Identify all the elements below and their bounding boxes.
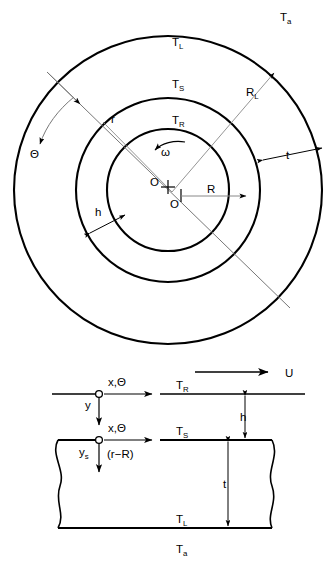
label-origin-upper: O [150, 176, 159, 188]
origin-cross-marker [161, 180, 175, 194]
label-inner-temp: TR [172, 114, 185, 129]
label-surface-axis: x,Θ [108, 422, 126, 434]
label-outer-temp: TL [172, 36, 184, 51]
technical-diagram: Ta TL TS TR Θ ω r RL t h R O O U [0, 0, 331, 569]
right-break-edge [270, 440, 274, 528]
top-origin-marker [96, 391, 103, 398]
theta-arc-arrow [40, 97, 74, 144]
t-dimension-line [263, 148, 322, 160]
label-temp-surface: TS [176, 425, 188, 440]
label-theta: Θ [30, 148, 39, 160]
label-temp-top: TR [176, 379, 189, 394]
label-ambient-bottom: Ta [176, 543, 188, 558]
label-h-gap: h [95, 206, 101, 218]
top-view-group: Ta TL TS TR Θ ω r RL t h R O O [14, 11, 322, 344]
label-ys: ys [79, 446, 89, 461]
label-omega: ω [161, 146, 170, 158]
label-top-axis: x,Θ [108, 376, 126, 388]
label-velocity: U [285, 367, 293, 379]
label-origin-lower: O [170, 198, 179, 210]
label-h-side: h [240, 411, 246, 423]
label-shaft-radius: R [207, 183, 215, 195]
label-ambient-top: Ta [280, 11, 292, 26]
label-mid-temp: TS [172, 78, 184, 93]
label-y: y [85, 399, 91, 411]
label-rl: RL [246, 86, 259, 101]
surface-origin-marker [96, 437, 103, 444]
label-temp-bottom: TL [176, 513, 188, 528]
omega-arc-arrow [155, 141, 185, 150]
label-r: r [111, 113, 115, 125]
label-t-side: t [223, 478, 227, 490]
side-view-group: U x,Θ y TR x,Θ ys (r−R) TS [52, 367, 305, 558]
left-break-edge [56, 440, 62, 528]
label-r-minus-R: (r−R) [107, 448, 134, 460]
